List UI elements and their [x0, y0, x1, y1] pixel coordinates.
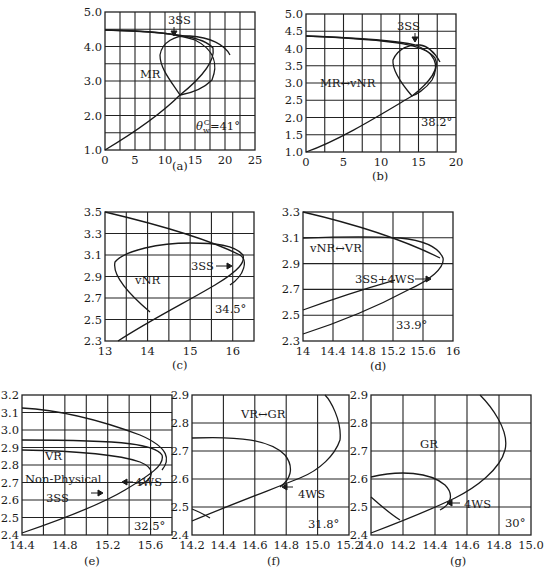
label-angle-c: 34.5° [215, 302, 246, 316]
label-region-g: GR [420, 437, 438, 451]
label-angle-b: 38.2° [421, 115, 452, 129]
label-angle-a: θwC=41° [196, 118, 240, 135]
label-region-f: VR↔GR [240, 407, 286, 421]
label-4ws-f: 4WS [298, 487, 325, 501]
label-3ss-a: 3SS [168, 13, 191, 27]
caption-f: (f) [267, 554, 280, 568]
label-3ss-c: 3SS [191, 259, 214, 273]
caption-g: (g) [450, 554, 466, 568]
label-region-d: vNR↔VR [309, 241, 362, 255]
label-angle-f: 31.8° [308, 517, 339, 531]
label-nonphysical-e: Non-Physical [25, 472, 102, 486]
label-region-b: MR↔vNR [320, 76, 376, 90]
label-3ss-b: 3SS [397, 19, 420, 33]
label-angle-e: 32.5° [134, 519, 165, 533]
caption-a: (a) [172, 159, 188, 173]
caption-d: (d) [370, 359, 386, 373]
label-4ws-e: 4WS [135, 475, 162, 489]
annotation-arrows [91, 27, 460, 506]
label-region-c: vNR [134, 273, 161, 287]
label-angle-d: 33.9° [396, 318, 427, 332]
label-3ss-e: 3SS [46, 491, 69, 505]
label-point-d: 3SS+4WS [355, 272, 415, 286]
caption-c: (c) [172, 358, 187, 372]
caption-b: (b) [372, 169, 388, 183]
label-angle-g: 30° [505, 516, 525, 530]
label-4ws-g: 4WS [464, 497, 491, 511]
label-region-a: MR [140, 67, 161, 81]
caption-e: (e) [84, 554, 100, 568]
label-region-e: VR [44, 449, 62, 463]
figure-labels: (a) 3SS MR θwC=41° (b) 3SS MR↔vNR 38.2° … [0, 0, 552, 576]
